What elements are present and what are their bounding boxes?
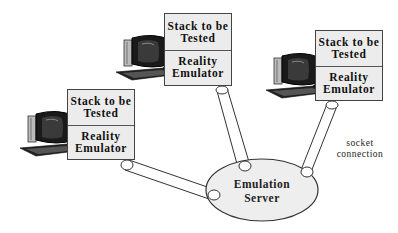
diagram-canvas: Stack to be Tested Reality Emulator Stac…	[0, 0, 398, 233]
stack-label: Stack to be Tested	[316, 36, 382, 60]
client-node-left: Stack to be Tested Reality Emulator	[67, 89, 135, 160]
reality-emulator-cell: Reality Emulator	[316, 66, 382, 101]
socket-connection-label: socket connection	[330, 138, 390, 160]
emulator-label: Reality Emulator	[68, 130, 134, 154]
socket-pipe-middle	[217, 88, 249, 164]
server-label: Emulation Server	[222, 177, 302, 205]
reality-emulator-cell: Reality Emulator	[68, 125, 134, 160]
client-node-middle: Stack to be Tested Reality Emulator	[164, 13, 232, 86]
server-label-line1: Emulation	[222, 177, 302, 191]
reality-emulator-cell: Reality Emulator	[165, 50, 231, 86]
emulator-label: Reality Emulator	[165, 55, 231, 79]
server-label-line2: Server	[222, 191, 302, 205]
stack-under-test-cell: Stack to be Tested	[165, 14, 231, 51]
socket-pipe-left	[125, 160, 216, 200]
stack-label: Stack to be Tested	[68, 95, 134, 119]
client-node-right: Stack to be Tested Reality Emulator	[315, 30, 383, 101]
emulator-label: Reality Emulator	[316, 71, 382, 95]
stack-label: Stack to be Tested	[165, 20, 231, 44]
stack-under-test-cell: Stack to be Tested	[316, 31, 382, 67]
socket-label-line1: socket	[330, 138, 390, 149]
socket-label-line2: connection	[330, 149, 390, 160]
stack-under-test-cell: Stack to be Tested	[68, 90, 134, 126]
